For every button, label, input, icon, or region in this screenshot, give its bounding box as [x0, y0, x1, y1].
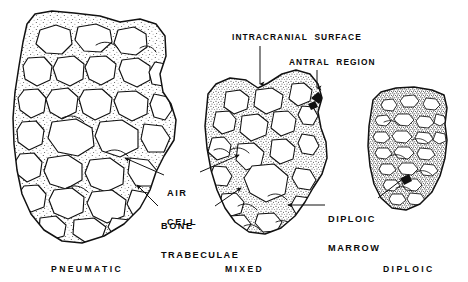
caption-diploic: DIPLOIC: [383, 265, 435, 274]
label-diploic-marrow: DIPLOIC MARROW: [328, 196, 380, 264]
label-antral-region: ANTRAL REGION: [289, 58, 376, 67]
label-bone-trabeculae: BONE TRABECULAE: [161, 203, 239, 271]
label-intracranial-surface: INTRACRANIAL SURFACE: [232, 33, 362, 42]
label-diploic-marrow-line2: MARROW: [328, 244, 380, 254]
label-bone-trabeculae-line1: BONE: [161, 222, 239, 232]
caption-pneumatic: PNEUMATIC: [51, 265, 123, 274]
label-bone-trabeculae-line2: TRABECULAE: [161, 251, 239, 261]
label-diploic-marrow-line1: DIPLOIC: [328, 215, 380, 225]
caption-mixed: MIXED: [225, 265, 264, 274]
label-air-cell-line1: AIR: [167, 189, 197, 199]
